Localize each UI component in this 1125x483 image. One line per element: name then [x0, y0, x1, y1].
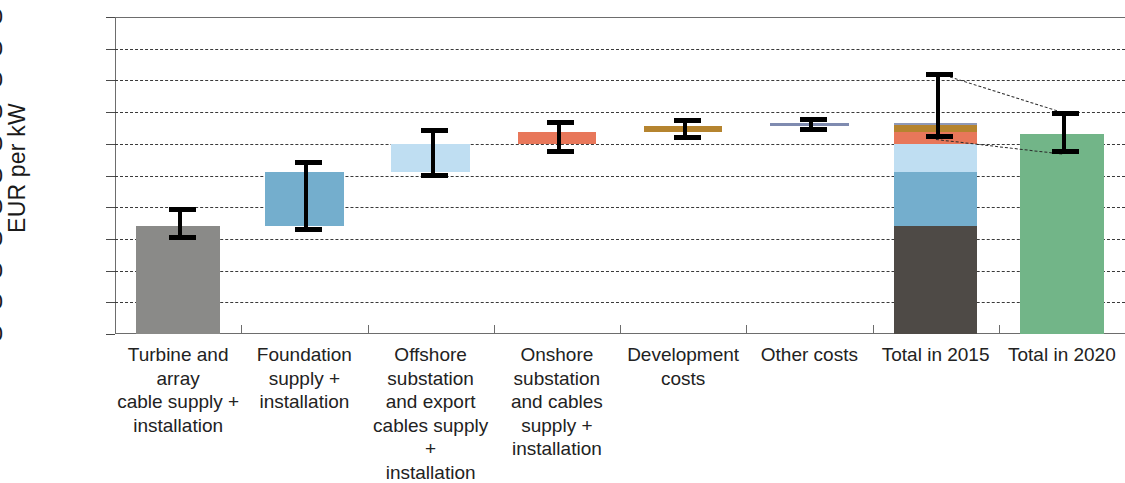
error-bar-cap-top	[169, 207, 196, 212]
error-bar-cap-top	[1052, 111, 1079, 116]
gridline-4000	[115, 80, 1125, 81]
y-tick-label-1500: 1 500	[0, 228, 3, 250]
x-axis-label-line: installation	[241, 390, 367, 414]
x-axis-label-line: Foundation	[241, 343, 367, 367]
bar-8	[1020, 134, 1103, 334]
x-axis-label-5: Developmentcosts	[620, 343, 746, 390]
error-bar-cap-bottom	[674, 135, 701, 140]
x-axis-label-line: supply +	[241, 367, 367, 391]
x-axis-label-4: Onshoresubstationand cablessupply +insta…	[494, 343, 620, 461]
x-axis-label-line: cables supply +	[368, 414, 494, 461]
y-tick-label-500: 500	[0, 291, 3, 313]
error-bar-cap-bottom	[547, 149, 574, 154]
y-tick-mark-500	[106, 302, 115, 303]
x-axis-label-line: Total in 2015	[873, 343, 999, 367]
y-tick-label-3000: 3 000	[0, 133, 3, 155]
error-bar-4	[557, 120, 561, 154]
x-axis-label-line: Onshore	[494, 343, 620, 367]
x-axis-label-line: substation	[368, 367, 494, 391]
error-bar-cap-top	[926, 72, 953, 77]
x-axis-label-6: Other costs	[746, 343, 872, 367]
error-bar-cap-bottom	[295, 227, 322, 232]
x-tick-mark-6	[873, 325, 874, 334]
y-tick-label-2500: 2 500	[0, 165, 3, 187]
x-tick-mark-3	[494, 325, 495, 334]
x-tick-mark-7	[999, 325, 1000, 334]
y-tick-label-2000: 2 000	[0, 196, 3, 218]
error-bar-cap-bottom	[926, 134, 953, 139]
error-bar-cap-bottom	[169, 235, 196, 240]
x-axis-label-line: costs	[620, 367, 746, 391]
x-axis-label-1: Turbine and arraycable supply +installat…	[115, 343, 241, 437]
gridline-3500	[115, 112, 1125, 113]
x-axis-label-line: installation	[494, 437, 620, 461]
x-axis-label-7: Total in 2015	[873, 343, 999, 367]
x-tick-mark-4	[620, 325, 621, 334]
x-axis-label-line: Other costs	[746, 343, 872, 367]
x-axis-label-line: cable supply +	[115, 390, 241, 414]
error-bar-3	[431, 128, 435, 178]
y-tick-mark-0	[106, 334, 115, 335]
x-axis-label-line: substation	[494, 367, 620, 391]
x-axis-category-labels: Turbine and arraycable supply +installat…	[115, 343, 1125, 457]
x-axis-label-line: Offshore	[368, 343, 494, 367]
y-tick-label-5000: 5 000	[0, 6, 3, 28]
y-tick-mark-1500	[106, 239, 115, 240]
x-axis-label-line: and export	[368, 390, 494, 414]
error-bar-cap-top	[421, 128, 448, 133]
error-bar-cap-bottom	[800, 127, 827, 132]
error-bar-5	[683, 118, 687, 140]
x-axis-label-line: installation	[368, 461, 494, 483]
y-tick-mark-1000	[106, 271, 115, 272]
error-bar-8	[1062, 111, 1066, 153]
error-bar-7	[936, 72, 940, 140]
y-tick-label-4000: 4 000	[0, 69, 3, 91]
error-bar-cap-top	[800, 117, 827, 122]
error-bar-cap-bottom	[421, 173, 448, 178]
x-axis-label-line: supply +	[494, 414, 620, 438]
y-tick-label-4500: 4 500	[0, 38, 3, 60]
y-tick-mark-4500	[106, 49, 115, 50]
y-tick-mark-5000	[106, 17, 115, 18]
x-axis-label-8: Total in 2020	[999, 343, 1125, 367]
plot-area: 5 0004 5004 0003 5003 0002 5002 0001 500…	[115, 17, 1125, 334]
y-tick-mark-2500	[106, 176, 115, 177]
x-tick-mark-2	[368, 325, 369, 334]
gridline-4500	[115, 49, 1125, 50]
x-axis-label-line: and cables	[494, 390, 620, 414]
y-tick-mark-4000	[106, 80, 115, 81]
x-axis-label-line: Total in 2020	[999, 343, 1125, 367]
error-bar-cap-top	[674, 118, 701, 123]
x-tick-mark-5	[746, 325, 747, 334]
error-bar-6	[809, 117, 813, 132]
x-axis-label-line: Turbine and array	[115, 343, 241, 390]
x-axis-label-line: Development	[620, 343, 746, 367]
y-tick-label-1000: 1 000	[0, 260, 3, 282]
bar-segment-1	[894, 226, 977, 334]
x-tick-mark-1	[241, 325, 242, 334]
y-axis-title: EUR per kW	[0, 0, 34, 338]
y-tick-mark-2000	[106, 207, 115, 208]
error-bar-cap-top	[295, 160, 322, 165]
x-axis-label-3: Offshoresubstationand exportcables suppl…	[368, 343, 494, 483]
error-bar-2	[304, 160, 308, 232]
bar-1	[136, 226, 219, 334]
y-tick-mark-3500	[106, 112, 115, 113]
error-bar-cap-top	[547, 120, 574, 125]
y-tick-label-0: 0	[0, 323, 3, 345]
x-axis-label-2: Foundationsupply +installation	[241, 343, 367, 414]
bar-7	[894, 123, 977, 334]
y-tick-label-3500: 3 500	[0, 101, 3, 123]
x-axis-label-line: installation	[115, 414, 241, 438]
y-tick-mark-3000	[106, 144, 115, 145]
bar-segment-2	[894, 172, 977, 227]
error-bar-1	[178, 207, 182, 239]
error-bar-cap-bottom	[1052, 149, 1079, 154]
bar-segment-3	[894, 144, 977, 172]
